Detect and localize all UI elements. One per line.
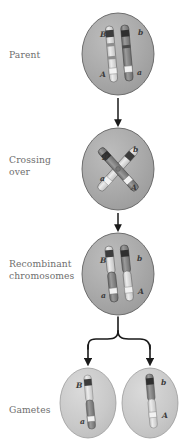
chromosome-label-B-parent: B <box>99 30 107 39</box>
chromosome-label-b-crossing: b <box>133 145 138 154</box>
band-B-gamete-left <box>84 379 92 386</box>
band-a-recombinant <box>109 288 118 295</box>
cell-crossing-over: B b a A <box>82 128 154 210</box>
crossing-over-diagram: Parent Crossing over Recombinant chromos… <box>0 0 190 444</box>
chromosome-label-a-recombinant: a <box>101 291 106 300</box>
chiasma-point <box>116 167 121 172</box>
band-A-parent <box>109 68 117 75</box>
cell-gamete-right: b A <box>122 368 178 438</box>
chromosome-label-B-gamete-left: B <box>75 381 83 390</box>
band-b-gamete-right <box>146 378 154 385</box>
chromosome-label-A-crossing: A <box>130 183 137 192</box>
chromosome-label-b-recombinant: b <box>137 254 142 263</box>
chromosome-label-b-gamete-right: b <box>161 378 166 387</box>
chromosome-label-A-recombinant: A <box>137 287 144 296</box>
chromosome-label-a-parent: a <box>137 68 142 77</box>
cell-gamete-left: B a <box>60 368 116 438</box>
cell-parent: B b A a <box>82 13 154 95</box>
cell-membrane-parent <box>82 13 154 95</box>
chromosome-label-b-parent: b <box>138 28 143 37</box>
chromosome-label-a-gamete-left: a <box>80 417 85 426</box>
bracket-recombinant-to-gametes <box>88 317 150 363</box>
chromosome-label-a-crossing: a <box>100 174 105 183</box>
cell-membrane-recombinant <box>82 233 154 315</box>
chromosome-label-B-crossing: B <box>101 153 109 162</box>
band-a-gamete-left <box>87 416 95 422</box>
band-a-parent <box>124 66 133 73</box>
cell-recombinant: B b a A <box>82 233 154 315</box>
band-B-parent <box>105 30 114 38</box>
chromosome-label-A-gamete-right: A <box>161 411 168 420</box>
band-A-recombinant <box>124 287 133 294</box>
band-b-recombinant <box>121 250 130 257</box>
band-mid-left-parent <box>107 43 115 47</box>
chromosome-label-B-recombinant: B <box>99 256 107 265</box>
band-A-gamete-right <box>149 412 157 418</box>
diagram-graphics: B b A a B <box>0 0 190 444</box>
band-b-parent <box>121 30 130 37</box>
chromosome-label-A-parent: A <box>99 70 106 79</box>
